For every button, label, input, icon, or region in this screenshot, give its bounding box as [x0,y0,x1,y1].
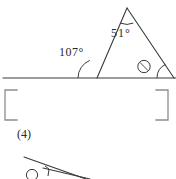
exterior-angle-arc-107 [78,60,90,78]
geometry-figure [0,0,176,179]
circled-angle-b-slash [140,63,148,71]
part-number-label: (4) [17,128,31,140]
apex-angle-arc [121,23,134,24]
angle-label-107: 107° [59,46,84,58]
next-figure-lower-line [43,168,90,179]
triangle-left-side [97,8,127,78]
figure-bracket [5,90,17,120]
figure-page: 51° 107° (4) [0,0,176,179]
right-vertex-angle-arc [157,64,166,78]
figure-bracket-right [156,90,168,120]
next-figure-angle-mark [45,166,49,176]
angle-label-51: 51° [111,27,131,39]
next-figure-circled-number-marker [26,169,37,179]
